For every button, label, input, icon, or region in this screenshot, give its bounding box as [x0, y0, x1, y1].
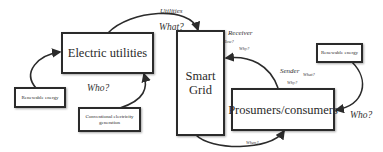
label-who-left: Who? [87, 83, 109, 93]
node-conventional: Conventional electricity generation [78, 107, 141, 132]
label-sender: Sender [280, 67, 299, 75]
node-prosumers: Prosumers/consumers [231, 88, 335, 131]
node-label: Electric utilities [68, 46, 148, 60]
edge-conventional-to-utilities [120, 74, 145, 108]
label-what-sender: What? [303, 72, 315, 77]
label-why-sender: Why? [287, 80, 297, 85]
label-utilities: Utilities [160, 7, 183, 15]
label-when: When? [246, 140, 259, 145]
node-label: Conventional electricity generation [82, 114, 137, 126]
label-how: How? [223, 39, 234, 44]
node-renewable-left: Renewable energy [14, 87, 66, 108]
node-label: Smart Grid [184, 69, 218, 97]
node-renewable-right: Renewable energy [316, 43, 363, 63]
edge-renewable-to-prosumers [336, 62, 363, 110]
label-what-top: What? [159, 22, 184, 32]
node-label: Renewable energy [22, 95, 59, 101]
node-label: Renewable energy [321, 50, 358, 56]
label-receiver: Receiver [228, 29, 252, 37]
edge-renewable-to-utilities [31, 52, 60, 88]
label-why-top: Why? [239, 46, 249, 51]
node-electric-utilities: Electric utilities [61, 32, 154, 74]
node-label: Prosumers/consumers [228, 103, 338, 117]
edge-prosumers-to-grid [226, 57, 278, 88]
label-who-right: Who? [350, 110, 372, 120]
node-smart-grid: Smart Grid [176, 30, 225, 136]
